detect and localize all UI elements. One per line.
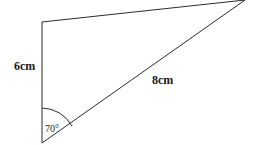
label-70deg: 70° — [45, 123, 59, 134]
top-side — [42, 0, 245, 22]
label-6cm: 6cm — [14, 59, 35, 73]
triangle-diagram: 6cm 8cm 70° — [0, 0, 260, 145]
hypotenuse-side — [42, 0, 245, 143]
label-8cm: 8cm — [152, 73, 173, 87]
